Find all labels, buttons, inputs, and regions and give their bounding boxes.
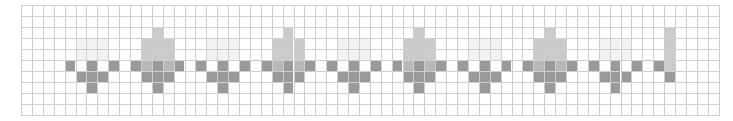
grid-cell-dark xyxy=(130,60,141,71)
grid-cell-ghost xyxy=(490,38,501,49)
grid-line-horizontal xyxy=(21,71,720,72)
grid-cell-dark xyxy=(152,60,163,71)
cell-grid xyxy=(21,5,719,115)
grid-cell-dark xyxy=(152,71,163,82)
grid-cell-dark xyxy=(435,60,446,71)
grid-cell-ghost xyxy=(217,49,228,60)
grid-cell-ghost xyxy=(97,49,108,60)
grid-cell-overlap xyxy=(403,60,414,71)
grid-line-horizontal xyxy=(21,82,720,83)
grid-cell-ghost xyxy=(97,38,108,49)
grid-cell-light xyxy=(555,49,566,60)
grid-cell-dark xyxy=(490,71,501,82)
grid-cell-overlap xyxy=(555,60,566,71)
grid-cell-dark xyxy=(163,71,174,82)
grid-cell-dark xyxy=(239,60,250,71)
grid-cell-overlap xyxy=(272,60,283,71)
grid-cell-ghost xyxy=(468,38,479,49)
grid-cell-ghost xyxy=(337,38,348,49)
grid-cell-ghost xyxy=(86,49,97,60)
grid-cell-dark xyxy=(206,71,217,82)
grid-cell-dark xyxy=(479,82,490,93)
grid-cell-dark xyxy=(65,60,76,71)
grid-cell-light xyxy=(403,49,414,60)
grid-line-horizontal xyxy=(21,38,720,39)
grid-cell-light xyxy=(555,38,566,49)
grid-cell-dark xyxy=(566,60,577,71)
grid-cell-ghost xyxy=(599,38,610,49)
grid-cell-dark xyxy=(479,71,490,82)
grid-cell-dark xyxy=(424,71,435,82)
grid-cell-dark xyxy=(413,82,424,93)
grid-cell-light xyxy=(544,38,555,49)
grid-cell-dark xyxy=(555,71,566,82)
grid-cell-light xyxy=(413,49,424,60)
grid-cell-light xyxy=(533,49,544,60)
grid-cell-dark xyxy=(326,60,337,71)
grid-cell-overlap xyxy=(163,60,174,71)
grid-cell-dark xyxy=(610,82,621,93)
grid-cell-ghost xyxy=(348,38,359,49)
grid-cell-ghost xyxy=(621,49,632,60)
grid-cell-dark xyxy=(501,60,512,71)
grid-cell-light xyxy=(664,60,675,71)
grid-cell-ghost xyxy=(610,38,621,49)
grid-cell-dark xyxy=(86,60,97,71)
grid-cell-dark xyxy=(304,60,315,71)
grid-cell-light xyxy=(403,38,414,49)
grid-line-horizontal xyxy=(21,115,720,116)
grid-cell-dark xyxy=(392,60,403,71)
grid-cell-ghost xyxy=(337,49,348,60)
grid-cell-ghost xyxy=(86,38,97,49)
grid-cell-dark xyxy=(97,71,108,82)
grid-cell-overlap xyxy=(424,60,435,71)
grid-cell-dark xyxy=(468,71,479,82)
grid-cell-dark xyxy=(610,71,621,82)
grid-cell-dark xyxy=(272,71,283,82)
grid-cell-dark xyxy=(403,71,414,82)
grid-cell-ghost xyxy=(76,38,87,49)
grid-cell-light xyxy=(413,38,424,49)
grid-cell-light xyxy=(283,38,294,49)
grid-cell-dark xyxy=(359,71,370,82)
grid-cell-light xyxy=(152,49,163,60)
grid-cell-dark xyxy=(141,71,152,82)
grid-cell-ghost xyxy=(479,38,490,49)
grid-cell-light xyxy=(294,38,305,49)
grid-cell-overlap xyxy=(141,60,152,71)
grid-line-horizontal xyxy=(21,104,720,105)
grid-cell-dark xyxy=(217,71,228,82)
grid-cell-light xyxy=(544,27,555,38)
grid-cell-light xyxy=(141,49,152,60)
grid-cell-overlap xyxy=(294,60,305,71)
grid-cell-dark xyxy=(457,60,468,71)
grid-cell-dark xyxy=(653,60,664,71)
grid-cell-light xyxy=(424,49,435,60)
grid-cell-dark xyxy=(152,82,163,93)
grid-cell-dark xyxy=(544,60,555,71)
grid-cell-ghost xyxy=(610,49,621,60)
grid-line-horizontal xyxy=(21,16,720,17)
grid-cell-light xyxy=(163,38,174,49)
grid-cell-ghost xyxy=(479,49,490,60)
grid-cell-light xyxy=(283,49,294,60)
grid-cell-light xyxy=(544,49,555,60)
grid-cell-ghost xyxy=(217,38,228,49)
grid-cell-dark xyxy=(588,60,599,71)
grid-cell-dark xyxy=(610,60,621,71)
grid-cell-light xyxy=(424,38,435,49)
grid-cell-ghost xyxy=(206,38,217,49)
grid-line-horizontal xyxy=(21,27,720,28)
grid-cell-dark xyxy=(479,60,490,71)
grid-cell-overlap xyxy=(533,60,544,71)
grid-cell-dark xyxy=(86,71,97,82)
grid-cell-dark xyxy=(337,71,348,82)
grid-cell-dark xyxy=(348,60,359,71)
grid-cell-dark xyxy=(413,71,424,82)
grid-cell-light xyxy=(294,49,305,60)
grid-cell-light xyxy=(664,38,675,49)
grid-cell-light xyxy=(272,38,283,49)
grid-cell-dark xyxy=(86,82,97,93)
grid-cell-dark xyxy=(261,60,272,71)
grid-cell-ghost xyxy=(359,49,370,60)
